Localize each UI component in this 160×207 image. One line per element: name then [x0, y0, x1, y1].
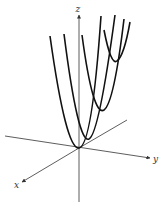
x-axis	[22, 148, 79, 182]
x-axis-label: x	[14, 180, 19, 190]
parabola-4	[104, 22, 130, 62]
y-axis-label: y	[152, 154, 159, 164]
z-axis-label: z	[75, 4, 81, 14]
y-axis	[5, 136, 150, 158]
3d-parabola-diagram: z y x	[0, 0, 160, 207]
parabola-1	[50, 16, 101, 148]
